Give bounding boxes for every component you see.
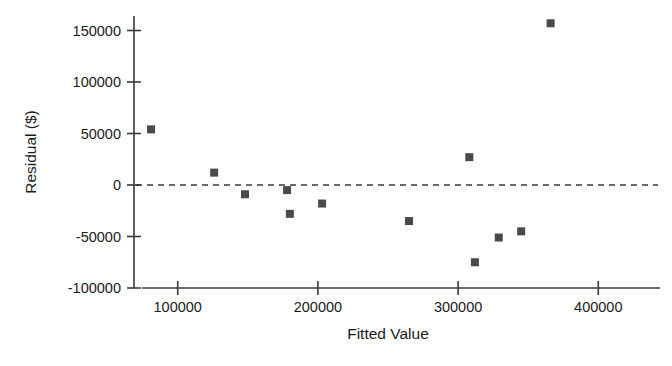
y-tick-label-50000: 50000 xyxy=(81,126,121,142)
data-point xyxy=(286,210,294,218)
y-tick-label--50000: -50000 xyxy=(76,229,121,245)
x-axis-title: Fitted Value xyxy=(347,325,429,342)
data-point xyxy=(495,234,503,242)
data-point xyxy=(471,258,479,266)
y-tick-label-100000: 100000 xyxy=(73,74,121,90)
x-tick-label-200000: 200000 xyxy=(294,299,342,315)
data-point xyxy=(283,186,291,194)
data-point xyxy=(547,19,555,27)
data-point xyxy=(465,153,473,161)
data-point xyxy=(241,190,249,198)
x-tick-label-300000: 300000 xyxy=(434,299,482,315)
y-axis-title: Residual ($) xyxy=(22,110,39,194)
y-tick-label--100000: -100000 xyxy=(68,280,121,296)
y-tick-label-0: 0 xyxy=(113,177,121,193)
data-point xyxy=(147,125,155,133)
x-tick-label-100000: 100000 xyxy=(154,299,202,315)
data-point xyxy=(517,227,525,235)
scatter-plot-figure: -100000-50000050000100000150000100000200… xyxy=(0,0,672,366)
residual-scatter-chart: -100000-50000050000100000150000100000200… xyxy=(0,0,672,366)
data-point xyxy=(405,217,413,225)
y-tick-label-150000: 150000 xyxy=(73,23,121,39)
data-point xyxy=(318,200,326,208)
data-point xyxy=(210,169,218,177)
x-tick-label-400000: 400000 xyxy=(574,299,622,315)
